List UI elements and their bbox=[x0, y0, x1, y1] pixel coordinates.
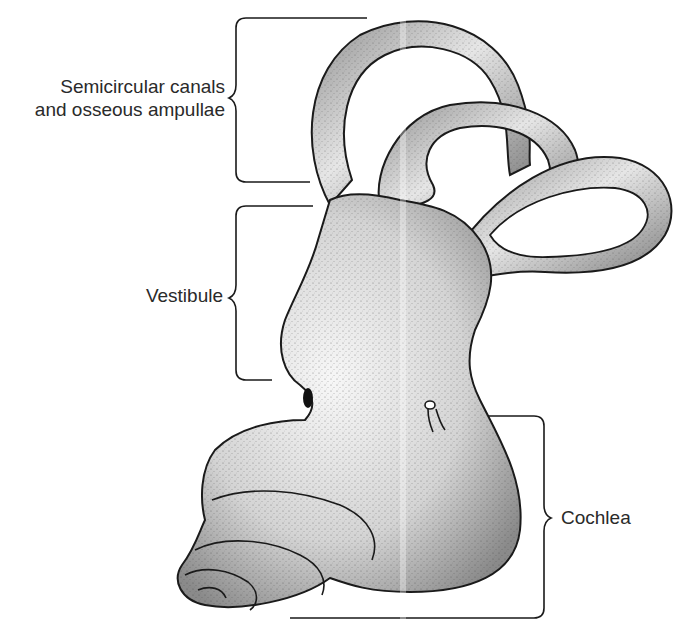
label-vestibule: Vestibule bbox=[146, 284, 223, 307]
label-cochlea: Cochlea bbox=[561, 506, 631, 529]
label-vestibule-text: Vestibule bbox=[146, 284, 223, 307]
oval-window bbox=[303, 388, 313, 408]
vestibule-and-cochlea-body bbox=[178, 194, 521, 607]
center-seam bbox=[400, 0, 406, 634]
label-semicircular-canals: Semicircular canals and osseous ampullae bbox=[35, 75, 225, 121]
label-semicircular-canals-line-2: and osseous ampullae bbox=[35, 98, 225, 121]
lateral-semicircular-canal bbox=[460, 157, 671, 280]
label-cochlea-text: Cochlea bbox=[561, 506, 631, 529]
label-semicircular-canals-line-1: Semicircular canals bbox=[35, 75, 225, 98]
